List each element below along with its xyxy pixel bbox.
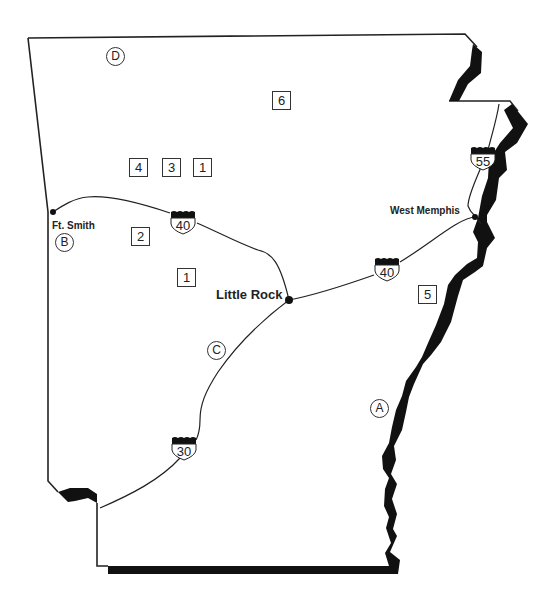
circle-marker-c: C bbox=[207, 341, 226, 360]
west-memphis-dot bbox=[472, 214, 478, 220]
shield-number: 40 bbox=[374, 265, 400, 280]
interstate-shield-55: 55 bbox=[470, 145, 496, 171]
city-label-ft-smith: Ft. Smith bbox=[52, 220, 95, 231]
shield-number: 40 bbox=[170, 218, 196, 233]
box-marker-1-north: 1 bbox=[193, 158, 212, 177]
box-marker-5: 5 bbox=[418, 285, 437, 304]
southern-border-band bbox=[108, 566, 398, 574]
box-marker-1-central: 1 bbox=[177, 268, 196, 287]
circle-marker-b: B bbox=[55, 233, 74, 252]
box-marker-3: 3 bbox=[162, 158, 181, 177]
city-label-little-rock: Little Rock bbox=[216, 287, 282, 302]
interstate-shield-40-west: 40 bbox=[170, 209, 196, 235]
interstate-shield-30: 30 bbox=[171, 435, 197, 461]
box-marker-4: 4 bbox=[129, 158, 148, 177]
mississippi-river-border bbox=[382, 44, 528, 574]
shield-number: 30 bbox=[171, 444, 197, 459]
city-label-west-memphis: West Memphis bbox=[390, 205, 460, 216]
interstate-shield-40-east: 40 bbox=[374, 256, 400, 282]
ft-smith-dot bbox=[50, 209, 56, 215]
circle-marker-a: A bbox=[370, 399, 389, 418]
box-marker-2: 2 bbox=[131, 227, 150, 246]
interstate-30-road bbox=[100, 300, 289, 508]
shield-number: 55 bbox=[470, 154, 496, 169]
box-marker-6: 6 bbox=[272, 91, 291, 110]
red-river-notch bbox=[58, 488, 97, 503]
circle-marker-d: D bbox=[106, 47, 125, 66]
little-rock-dot bbox=[285, 296, 293, 304]
